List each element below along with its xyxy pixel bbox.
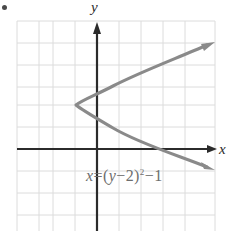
- grid-lines: [17, 21, 215, 231]
- equation-annotation: x=(y−2)2−1: [86, 167, 163, 185]
- equation-k-value: 1: [154, 167, 162, 184]
- y-axis-arrowhead: [93, 22, 101, 34]
- equation-minus-outer: −: [145, 167, 154, 184]
- curve-arrowhead-lower: [201, 162, 215, 170]
- coordinate-plane: [0, 0, 232, 231]
- equation-minus-inner: −: [116, 167, 125, 184]
- equation-equals: =: [94, 167, 103, 184]
- x-axis-label: x: [219, 142, 226, 157]
- figure-canvas: y x x=(y−2)2−1: [0, 0, 232, 231]
- equation-lhs: x: [86, 167, 94, 184]
- equation-h-value: 2: [126, 167, 134, 184]
- x-axis: [17, 145, 217, 153]
- y-axis-label: y: [91, 0, 98, 15]
